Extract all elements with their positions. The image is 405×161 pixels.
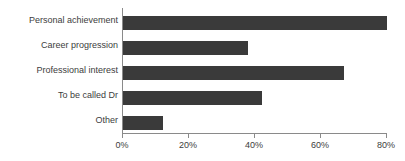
category-label: Professional interest: [0, 66, 118, 75]
bar-row: [122, 12, 386, 34]
category-axis-labels: Personal achievement Career progression …: [0, 8, 118, 133]
x-tick-label: 60%: [311, 141, 329, 150]
x-tick-label: 20%: [179, 141, 197, 150]
bar-row: [122, 37, 386, 59]
x-tick-mark: [320, 134, 321, 138]
bar-row: [122, 87, 386, 109]
x-tick-label: 80%: [377, 141, 395, 150]
x-tick-label: 40%: [245, 141, 263, 150]
bar-row: [122, 62, 386, 84]
x-tick-label: 0%: [115, 141, 128, 150]
x-tick-mark: [122, 134, 123, 138]
x-tick-mark: [188, 134, 189, 138]
bar: [123, 66, 344, 80]
category-label: Personal achievement: [0, 16, 118, 25]
category-label: Other: [0, 116, 118, 125]
bar-row: [122, 112, 386, 134]
x-tick-mark: [386, 134, 387, 138]
bars-layer: [122, 8, 386, 133]
bar: [123, 116, 163, 130]
plot-area: [122, 8, 386, 133]
bar: [123, 41, 248, 55]
bar-chart: Personal achievement Career progression …: [0, 0, 405, 161]
category-label: To be called Dr: [0, 91, 118, 100]
x-tick-mark: [254, 134, 255, 138]
bar: [123, 91, 262, 105]
bar: [123, 16, 387, 30]
category-label: Career progression: [0, 41, 118, 50]
